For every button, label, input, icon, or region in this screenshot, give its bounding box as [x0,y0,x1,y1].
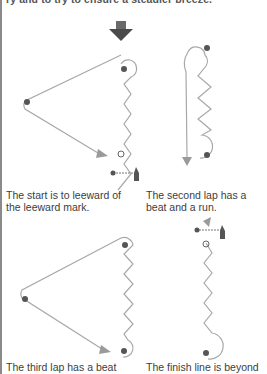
panel-third-lap [21,237,133,357]
wind-arrow-icon [109,21,133,41]
caption-line: The third lap has a beat [6,361,116,373]
caption-start: The start is to leeward of the leeward m… [6,189,121,213]
start-buoy-icon [111,171,116,176]
bottom-mark-icon [118,151,124,157]
caption-finish: The finish line is beyond [146,361,259,373]
caption-line: The finish line is beyond [146,361,259,373]
caption-line: The second lap has a [146,189,246,201]
windward-mark-icon [204,45,210,51]
course-arrow-icon [99,345,111,354]
course-arrow-icon [203,217,211,227]
panel-finish [204,243,223,359]
course-arrow-icon [96,149,108,158]
caption-second-lap: The second lap has a beat and a run. [146,189,246,213]
leeward-mark-icon [22,296,28,302]
course-diagrams [0,0,267,374]
windward-mark-icon [121,66,127,72]
leeward-mark-icon [24,99,30,105]
committee-boat-icon [134,167,139,181]
course-arrow-icon [182,157,192,166]
caption-third-lap: The third lap has a beat [6,361,116,373]
bottom-mark-icon [121,348,127,354]
panel-second-lap [184,47,212,158]
caption-line: beat and a run. [146,201,246,213]
committee-boat-icon [220,225,225,239]
finish-buoy-icon [195,228,200,233]
caption-line: the leeward mark. [6,201,121,213]
caption-line: The start is to leeward of [6,189,121,201]
bottom-mark-icon [203,350,209,356]
windward-mark-icon [122,242,128,248]
panel-start [24,55,137,190]
leeward-mark-icon [204,152,210,158]
